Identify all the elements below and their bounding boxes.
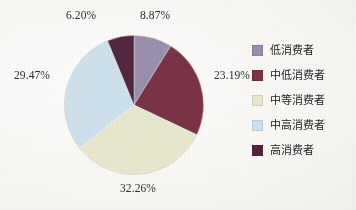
pie-label-mid-high: 29.47% [14, 69, 50, 81]
chart-legend: 低消费者 中低消费者 中等消费者 中高消费者 高消费者 [252, 38, 352, 163]
legend-label-high: 高消费者 [270, 145, 314, 156]
legend-label-mid-low: 中低消费者 [270, 70, 325, 81]
pie-chart-svg [64, 35, 204, 175]
chart-page: 6.20% 8.87% 23.19% 32.26% 29.47% 低消费者 中低… [0, 0, 356, 210]
legend-label-low: 低消费者 [270, 45, 314, 56]
pie-label-high: 6.20% [66, 9, 96, 21]
pie-label-mid: 32.26% [120, 182, 156, 194]
legend-swatch-icon-low [252, 45, 263, 56]
legend-swatch-icon-mid-low [252, 70, 263, 81]
legend-item-mid: 中等消费者 [252, 88, 352, 112]
legend-item-high: 高消费者 [252, 138, 352, 162]
legend-swatch-icon-mid [252, 95, 263, 106]
legend-label-mid-high: 中高消费者 [270, 120, 325, 131]
pie-slice-group [65, 36, 204, 175]
legend-item-mid-low: 中低消费者 [252, 63, 352, 87]
legend-label-mid: 中等消费者 [270, 95, 325, 106]
legend-item-low: 低消费者 [252, 38, 352, 62]
legend-swatch-icon-high [252, 145, 263, 156]
pie-chart [64, 35, 204, 175]
legend-swatch-icon-mid-high [252, 120, 263, 131]
pie-label-mid-low: 23.19% [214, 69, 250, 81]
legend-item-mid-high: 中高消费者 [252, 113, 352, 137]
pie-label-low: 8.87% [140, 9, 170, 21]
